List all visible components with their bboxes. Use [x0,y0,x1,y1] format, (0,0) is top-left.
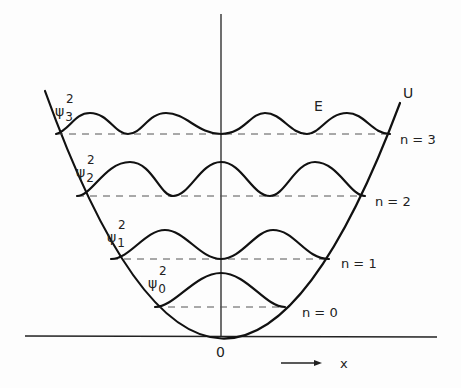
potential-label: U [403,85,413,101]
state-label-n2: n = 2 [375,194,411,209]
state-label-n1: n = 1 [341,256,377,271]
psi0-label: ψ02 [148,264,167,296]
psi3-label: ψ32 [55,92,74,124]
horizontal-axis [25,336,437,337]
arrow-head-icon [314,360,322,366]
state-label-n0: n = 0 [302,305,338,320]
psi1-squared-curve [111,230,329,259]
psi3-squared-curve [56,113,390,134]
psi0-squared-curve [155,273,285,307]
psi2-label: ψ22 [76,153,95,185]
state-label-n3: n = 3 [400,132,436,147]
psi1-label: ψ12 [107,218,126,250]
energy-label: E [314,98,323,114]
x-axis-label: x [340,356,348,371]
oscillator-diagram: ψ32 ψ22 ψ12 ψ02 n = 3 n = 2 n = 1 n = 0 … [0,0,461,388]
origin-label: 0 [216,344,225,360]
potential-parabola [45,91,400,339]
